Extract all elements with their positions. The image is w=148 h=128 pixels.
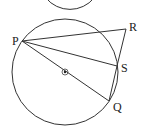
segment-PR bbox=[22, 29, 126, 41]
segment-SQ bbox=[109, 66, 117, 101]
segment-PS bbox=[22, 41, 117, 66]
label-R: R bbox=[129, 20, 137, 34]
geometry-diagram: P R S Q bbox=[0, 0, 148, 128]
center-dot-icon bbox=[64, 71, 66, 73]
label-Q: Q bbox=[113, 100, 122, 114]
label-S: S bbox=[121, 61, 128, 75]
label-P: P bbox=[12, 34, 19, 48]
partial-circle-arc-top bbox=[46, 0, 94, 9]
